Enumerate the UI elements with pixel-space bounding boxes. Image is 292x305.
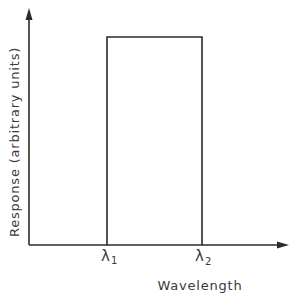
chart-canvas: λ1 λ2 Wavelength Response (arbitrary uni…: [0, 0, 292, 305]
x-axis-label: Wavelength: [157, 278, 242, 293]
x-tick-lambda2: λ2: [195, 247, 211, 267]
response-curve: [107, 37, 202, 245]
y-axis-arrow-icon: [26, 8, 33, 20]
bandpass-response-chart: λ1 λ2 Wavelength Response (arbitrary uni…: [0, 0, 292, 305]
y-axis-label: Response (arbitrary units): [7, 47, 22, 237]
x-axis-arrow-icon: [277, 242, 289, 249]
x-tick-lambda1: λ1: [101, 247, 117, 266]
